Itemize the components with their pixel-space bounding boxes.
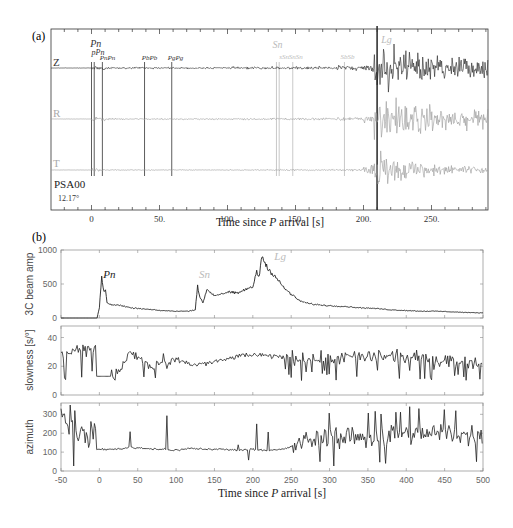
panel-b-ticks [61,250,483,471]
ylabel-slowness: slowness [s/°] [24,329,35,390]
slowness-line [61,345,482,381]
trace-label-r: R [53,107,61,119]
station-label: PSA00 [54,178,86,190]
y-tick-label: 500 [43,279,57,289]
phase-label-snsn: SnSn [289,53,304,61]
panel-b-tick-labels: 05001000020400100200300-5005010015020025… [38,245,490,485]
x-tick-label: 150 [207,475,221,485]
x-tick-label: 400 [399,475,413,485]
phase-markers: PnpPnPnPnPbPbPgPgSnsSnSnSnSbSbLg [89,26,392,210]
phase-label-lg: Lg [380,34,392,45]
y-tick-label: 20 [48,361,58,371]
x-tick-label: 0 [89,214,94,224]
y-tick-label: 40 [48,333,58,343]
phase-label-pnpn: PnPn [99,54,116,62]
y-tick-label: 300 [43,409,57,419]
phase-label-sbsb: SbSb [340,53,355,61]
x-tick-label: 50 [133,475,143,485]
y-tick-label: 0 [52,313,57,323]
y-tick-label: 100 [43,447,57,457]
trace-t [51,151,488,184]
x-tick-label: 200. [356,214,372,224]
x-tick-label: -50 [55,475,68,485]
amp-line [61,257,483,318]
distance-label: 12.17° [58,194,79,203]
x-tick-label: 350 [361,475,375,485]
panel-a: (a) 050.100.150.200.250. PnpPnPnPnPbPbPg… [32,26,488,228]
amp-subplot-frame [61,250,483,318]
panel-b: (b) 05001000020400100200300-500501001502… [24,230,490,499]
phase-label-pbpb: PbPb [141,54,158,62]
x-tick-label: 0 [97,475,102,485]
x-tick-label: 200 [246,475,260,485]
annotation-pn: Pn [102,268,116,280]
trace-label-t: T [53,157,60,169]
x-tick-label: 100 [169,475,183,485]
seismogram-traces [51,44,488,184]
panel-b-annotations: PnSnLg [102,250,286,280]
annotation-lg: Lg [273,250,286,262]
x-tick-label: 450 [438,475,452,485]
panel-a-label: (a) [32,29,45,43]
phase-label-pgpg: PgPg [167,54,184,62]
trace-r [51,98,488,140]
ylabel-azimuth: azimuth [24,419,35,454]
x-tick-label: 300 [322,475,336,485]
annotation-sn: Sn [199,268,211,280]
panel-a-xlabel: Time since P arrival [s] [216,216,324,228]
y-tick-label: 0 [52,390,57,400]
panel-a-ticks [64,29,486,210]
trace-label-z: Z [53,56,60,68]
trace-z [51,44,488,92]
slowness-subplot-frame [61,326,483,395]
x-tick-label: 250 [284,475,298,485]
figure: (a) 050.100.150.200.250. PnpPnPnPnPbPbPg… [0,0,513,528]
y-tick-label: 200 [43,428,57,438]
y-tick-label: 1000 [38,245,57,255]
x-tick-label: 250. [424,214,440,224]
azimuth-subplot-frame [61,403,483,471]
panel-b-label: (b) [32,230,46,244]
azimuth-line [61,405,482,466]
x-tick-label: 50. [154,214,165,224]
x-tick-label: 500 [476,475,490,485]
panel-b-series [61,257,483,466]
phase-label-sn: Sn [272,39,282,50]
panel-b-xlabel: Time since P arrival [s] [218,487,326,499]
ylabel-amp: 3C beam amp [24,252,35,315]
